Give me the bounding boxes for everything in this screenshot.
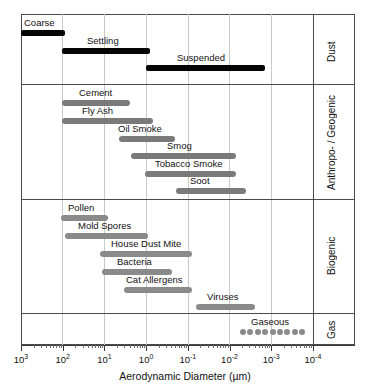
x-tick-minor: [142, 345, 143, 348]
x-tick-minor: [304, 345, 305, 348]
x-tick-major: [63, 345, 64, 351]
gaseous-dot: [247, 329, 253, 335]
x-tick-minor: [59, 345, 60, 348]
x-tick-minor: [223, 345, 224, 348]
x-tick-minor: [92, 345, 93, 348]
bar-label-gaseous: Gaseous: [251, 317, 289, 327]
bar-gaseous-dots: [240, 329, 305, 335]
x-tick-minor: [255, 345, 256, 348]
category-label-biogenic: Biogenic: [326, 214, 337, 298]
x-axis-title: Aerodynamic Diameter (µm): [0, 370, 370, 382]
x-tick-minor: [34, 345, 35, 348]
x-tick-minor: [220, 345, 221, 348]
bar-label-pollen: Pollen: [68, 203, 94, 213]
bar-soot: [176, 188, 246, 194]
x-tick-minor: [75, 345, 76, 348]
x-tick-minor: [179, 345, 180, 348]
x-tick-minor: [171, 345, 172, 348]
bar-label-bacteria: Bacteria: [117, 257, 152, 267]
category-label-dust: Dust: [326, 26, 337, 78]
x-tick-minor: [184, 345, 185, 348]
bar-label-cement: Cement: [79, 88, 112, 98]
x-tick-minor: [265, 345, 266, 348]
x-tick-minor: [166, 345, 167, 348]
x-tick-minor: [208, 345, 209, 348]
gridline-1e2: [62, 14, 63, 345]
x-tick-label: 10-1: [179, 354, 196, 365]
bar-label-soot: Soot: [190, 176, 210, 186]
bar-label-mold-spores: Mold Spores: [78, 221, 131, 231]
sidebar-separator: [313, 14, 314, 345]
x-tick-minor: [291, 345, 292, 348]
x-tick-minor: [311, 345, 312, 348]
bar-settling: [62, 48, 150, 54]
gaseous-dot: [299, 329, 305, 335]
x-tick-minor: [53, 345, 54, 348]
bar-label-smog: Smog: [167, 141, 192, 151]
x-tick-minor: [200, 345, 201, 348]
x-tick-minor: [144, 345, 145, 348]
gaseous-dot: [292, 329, 298, 335]
gaseous-dot: [270, 329, 276, 335]
x-tick-minor: [213, 345, 214, 348]
bar-suspended: [146, 65, 265, 71]
x-tick-minor: [88, 345, 89, 348]
x-tick-minor: [124, 345, 125, 348]
x-tick-major: [21, 345, 22, 351]
gaseous-dot: [240, 329, 246, 335]
x-tick-minor: [284, 345, 285, 348]
x-tick-major: [188, 345, 189, 351]
x-tick-minor: [225, 345, 226, 348]
x-tick-minor: [217, 345, 218, 348]
particle-size-chart: Coarse Settling Suspended Cement Fly Ash…: [0, 0, 370, 392]
x-tick-label: 103: [14, 354, 28, 365]
x-tick-major: [104, 345, 105, 351]
x-tick-minor: [98, 345, 99, 348]
gaseous-dot: [255, 329, 261, 335]
x-tick-minor: [159, 345, 160, 348]
x-tick-minor: [102, 345, 103, 348]
x-tick-minor: [61, 345, 62, 348]
x-tick-major: [271, 345, 272, 351]
bar-label-fly-ash: Fly Ash: [82, 106, 113, 116]
bar-label-cat-allergens: Cat Allergens: [126, 275, 183, 285]
x-tick-minor: [296, 345, 297, 348]
bar-coarse: [21, 30, 65, 36]
x-tick-minor: [306, 345, 307, 348]
x-tick-minor: [181, 345, 182, 348]
x-tick-minor: [262, 345, 263, 348]
x-tick-minor: [259, 345, 260, 348]
x-tick-minor: [309, 345, 310, 348]
bar-viruses: [196, 304, 255, 310]
gridline-1e-3: [271, 14, 272, 345]
bar-label-oil-smoke: Oil Smoke: [118, 124, 162, 134]
x-tick-label: 100: [139, 354, 153, 365]
x-tick-minor: [41, 345, 42, 348]
x-tick-minor: [242, 345, 243, 348]
x-tick-minor: [228, 345, 229, 348]
x-tick-minor: [186, 345, 187, 348]
divider-biogenic-gas: [21, 313, 355, 314]
x-tick-minor: [83, 345, 84, 348]
x-tick-label: 10-3: [263, 354, 280, 365]
bar-label-viruses: Viruses: [207, 292, 239, 302]
x-tick-minor: [300, 345, 301, 348]
bar-label-coarse: Coarse: [24, 18, 55, 28]
bar-label-house-dust-mite: House Dust Mite: [111, 239, 181, 249]
x-tick-minor: [117, 345, 118, 348]
x-tick-major: [313, 345, 314, 351]
x-tick-minor: [56, 345, 57, 348]
gridline-1e-1: [188, 14, 189, 345]
category-label-gas: Gas: [326, 318, 337, 342]
gaseous-dot: [284, 329, 290, 335]
x-tick-minor: [175, 345, 176, 348]
category-label-anthropogenic: Anthropo- / Geogenic: [326, 92, 337, 192]
bar-label-settling: Settling: [87, 36, 119, 46]
x-tick-major: [146, 345, 147, 351]
x-tick-label: 102: [55, 354, 69, 365]
x-tick-minor: [269, 345, 270, 348]
x-tick-minor: [95, 345, 96, 348]
x-tick-label: 101: [97, 354, 111, 365]
x-tick-minor: [50, 345, 51, 348]
x-tick-minor: [46, 345, 47, 348]
